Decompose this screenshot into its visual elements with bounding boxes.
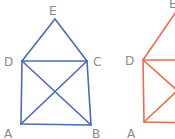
edge-DA — [21, 61, 22, 124]
diagram-canvas: ABCDE ADE — [0, 0, 175, 139]
edge-BC — [87, 61, 91, 125]
edge-DE — [143, 12, 175, 60]
vertex-label-A: A — [4, 127, 13, 139]
edge-AB — [21, 124, 91, 125]
edge-AB — [144, 122, 175, 123]
house-figure-red: ADE — [125, 0, 175, 139]
vertex-label-D: D — [125, 54, 134, 68]
edge-DE — [22, 19, 55, 61]
vertex-label-B: B — [92, 127, 100, 139]
vertex-label-E: E — [169, 0, 175, 11]
vertex-label-D: D — [4, 55, 13, 69]
edge-DB — [143, 60, 175, 123]
vertex-label-C: C — [93, 55, 101, 69]
house-figure-blue: ABCDE — [4, 4, 101, 139]
edge-DA — [143, 60, 144, 122]
edge-AC — [144, 60, 175, 122]
vertex-label-E: E — [49, 4, 57, 18]
vertex-label-A: A — [127, 127, 136, 139]
edge-DB — [22, 61, 91, 125]
edge-AC — [21, 61, 87, 124]
edge-EC — [55, 19, 87, 61]
